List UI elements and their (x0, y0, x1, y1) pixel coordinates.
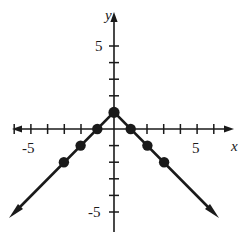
plot-point (75, 140, 85, 150)
x-tick-label-neg5: -5 (22, 141, 35, 156)
graph-figure: x y -5 5 5 -5 (0, 0, 251, 237)
plot-point-vertex (108, 107, 119, 118)
y-tick-label-neg5: -5 (88, 205, 101, 220)
plot-point (159, 157, 169, 167)
plot-point (59, 157, 69, 167)
y-axis (110, 12, 117, 232)
x-axis (12, 125, 234, 132)
plot-point (126, 124, 136, 134)
y-tick-label-pos5: 5 (95, 39, 103, 54)
x-axis-label: x (231, 139, 238, 154)
plot-point (142, 140, 152, 150)
x-axis-arrow-right-icon (224, 125, 234, 132)
plot-point (92, 124, 102, 134)
y-axis-label: y (105, 8, 112, 23)
x-tick-label-pos5: 5 (192, 141, 200, 156)
coordinate-plane-svg (0, 0, 251, 237)
